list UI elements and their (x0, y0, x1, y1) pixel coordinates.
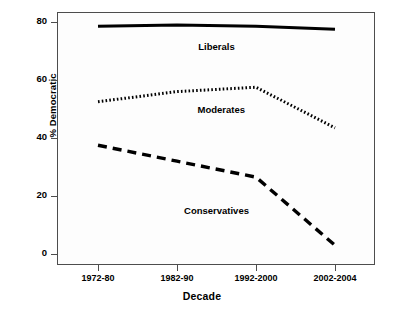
x-tick-mark (177, 265, 178, 271)
x-axis-label: Decade (0, 290, 404, 302)
series-label-moderates: Moderates (197, 104, 245, 115)
y-tick-label: 40 (36, 131, 47, 142)
y-tick-label: 20 (36, 189, 47, 200)
x-tick-mark (256, 265, 257, 271)
y-tick-mark (51, 80, 57, 81)
x-tick-label: 1992-2000 (216, 273, 296, 283)
y-tick-label: 60 (36, 73, 47, 84)
x-tick-label: 2002-2004 (295, 273, 375, 283)
x-tick-label: 1972-80 (58, 273, 138, 283)
series-label-liberals: Liberals (198, 41, 234, 52)
y-tick-mark (51, 254, 57, 255)
y-axis-label: % Democratic (47, 46, 58, 166)
y-tick-mark (51, 196, 57, 197)
chart-figure: % Democratic 020406080 1972-801982-90199… (0, 0, 404, 314)
x-tick-mark (98, 265, 99, 271)
y-tick-mark (51, 22, 57, 23)
y-tick-label: 0 (42, 247, 47, 258)
y-tick-label: 80 (36, 15, 47, 26)
x-tick-mark (335, 265, 336, 271)
x-tick-label: 1982-90 (137, 273, 217, 283)
series-label-conservatives: Conservatives (184, 205, 249, 216)
y-tick-mark (51, 138, 57, 139)
